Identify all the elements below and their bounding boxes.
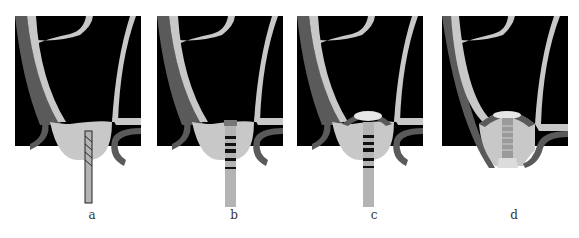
panel-label-a: a [82,208,102,222]
panel-b: b [142,0,287,238]
panel-label-b: b [224,208,244,222]
sinus-graft-diagram [282,0,427,238]
panel-d: d [427,0,572,238]
alveolar-ridge [50,121,112,160]
sinus-healed-diagram [427,0,572,238]
panel-label-c: c [364,208,384,222]
panel-a: a [0,0,145,238]
bone-graft [354,111,382,121]
panel-label-d: d [504,208,524,222]
sinus-drill-diagram [0,0,145,238]
sinus-implant-diagram [142,0,287,238]
panel-c: c [282,0,427,238]
drill-bit [85,131,92,203]
implant [225,122,236,207]
